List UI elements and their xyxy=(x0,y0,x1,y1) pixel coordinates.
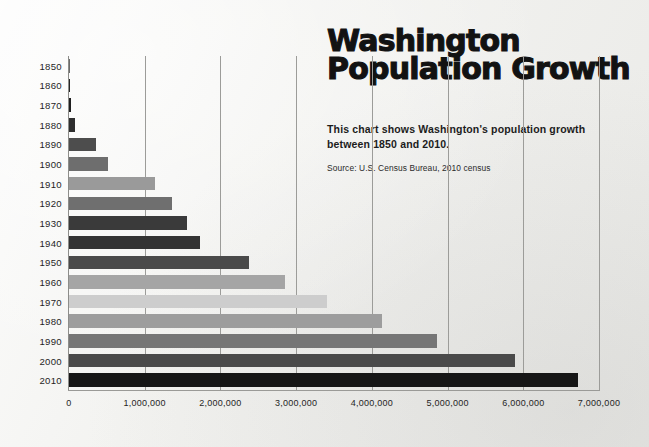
bar-row xyxy=(69,95,599,115)
bar-row xyxy=(69,56,599,76)
bar-row xyxy=(69,154,599,174)
y-tick-1910: 1910 xyxy=(16,178,62,189)
bar-2000[interactable] xyxy=(69,354,515,368)
y-tick-1930: 1930 xyxy=(16,218,62,229)
bar-1980[interactable] xyxy=(69,314,382,328)
x-axis-line xyxy=(68,390,600,391)
plot-area xyxy=(69,56,599,390)
y-tick-2000: 2000 xyxy=(16,355,62,366)
bar-row xyxy=(69,233,599,253)
bar-row xyxy=(69,331,599,351)
bar-row xyxy=(69,272,599,292)
y-tick-1920: 1920 xyxy=(16,198,62,209)
x-tick-2000000: 2,000,000 xyxy=(199,398,241,408)
x-tick-3000000: 3,000,000 xyxy=(275,398,317,408)
x-tick-0: 0 xyxy=(66,398,71,408)
bar-row xyxy=(69,194,599,214)
chart-canvas: Washington Population Growth This chart … xyxy=(0,0,649,447)
bar-row xyxy=(69,76,599,96)
bar-1860[interactable] xyxy=(69,79,70,93)
bar-1910[interactable] xyxy=(69,177,155,191)
x-tick-6000000: 6,000,000 xyxy=(502,398,544,408)
bar-1850[interactable] xyxy=(69,59,70,73)
x-tick-1000000: 1,000,000 xyxy=(124,398,166,408)
bar-1930[interactable] xyxy=(69,216,187,230)
y-tick-1900: 1900 xyxy=(16,159,62,170)
bar-1940[interactable] xyxy=(69,236,200,250)
bar-1960[interactable] xyxy=(69,275,285,289)
bar-1880[interactable] xyxy=(69,118,75,132)
bar-1970[interactable] xyxy=(69,295,327,309)
x-tick-5000000: 5,000,000 xyxy=(426,398,468,408)
bar-1900[interactable] xyxy=(69,157,108,171)
x-tick-7000000: 7,000,000 xyxy=(578,398,620,408)
bar-row xyxy=(69,213,599,233)
bar-1890[interactable] xyxy=(69,138,96,152)
y-tick-1870: 1870 xyxy=(16,100,62,111)
bar-1870[interactable] xyxy=(69,98,71,112)
y-tick-1890: 1890 xyxy=(16,139,62,150)
y-tick-1990: 1990 xyxy=(16,335,62,346)
bar-row xyxy=(69,174,599,194)
bar-row xyxy=(69,292,599,312)
bar-1990[interactable] xyxy=(69,334,437,348)
y-tick-1970: 1970 xyxy=(16,296,62,307)
bar-1950[interactable] xyxy=(69,256,249,270)
y-tick-1860: 1860 xyxy=(16,80,62,91)
y-tick-1940: 1940 xyxy=(16,237,62,248)
bar-row xyxy=(69,370,599,390)
bar-row xyxy=(69,311,599,331)
y-tick-1960: 1960 xyxy=(16,276,62,287)
y-tick-2010: 2010 xyxy=(16,375,62,386)
bar-1920[interactable] xyxy=(69,197,172,211)
y-tick-1850: 1850 xyxy=(16,60,62,71)
y-tick-1880: 1880 xyxy=(16,119,62,130)
bar-series xyxy=(69,56,599,390)
bar-row xyxy=(69,351,599,371)
bar-row xyxy=(69,252,599,272)
bar-row xyxy=(69,115,599,135)
bar-2010[interactable] xyxy=(69,373,578,387)
gridline-7000000 xyxy=(599,56,600,390)
x-axis-tick-labels: 01,000,0002,000,0003,000,0004,000,0005,0… xyxy=(0,398,649,416)
y-axis-tick-labels: 1850186018701880189019001910192019301940… xyxy=(12,56,62,390)
y-tick-1980: 1980 xyxy=(16,316,62,327)
bar-row xyxy=(69,135,599,155)
x-tick-4000000: 4,000,000 xyxy=(351,398,393,408)
y-tick-1950: 1950 xyxy=(16,257,62,268)
